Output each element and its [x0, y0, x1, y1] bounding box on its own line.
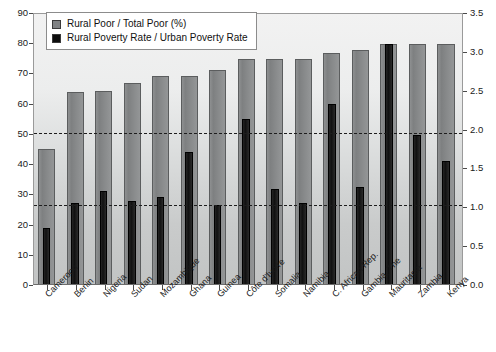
bar-group: [91, 14, 120, 284]
left-axis-tick-mark: [29, 43, 33, 44]
right-axis-tick-label: 1.5: [470, 162, 496, 173]
left-axis-tick-label: 10: [0, 249, 28, 260]
bar-group: [262, 14, 291, 284]
legend-label: Rural Poor / Total Poor (%): [67, 18, 186, 30]
bar-poverty-rate-ratio: [299, 203, 307, 284]
right-axis-tick-label: 0.5: [470, 240, 496, 251]
legend-swatch-gray-icon: [52, 20, 61, 29]
bar-group: [177, 14, 206, 284]
left-axis-tick-mark: [29, 73, 33, 74]
right-axis-tick-mark: [463, 52, 467, 53]
left-axis-tick-label: 30: [0, 188, 28, 199]
right-axis-tick-label: 1.0: [470, 201, 496, 212]
left-axis-tick-label: 70: [0, 67, 28, 78]
left-axis-tick-mark: [29, 285, 33, 286]
bar-group: [348, 14, 377, 284]
plot-area: [33, 13, 463, 285]
chart-legend: Rural Poor / Total Poor (%) Rural Povert…: [46, 12, 257, 50]
bar-poverty-rate-ratio: [157, 197, 165, 284]
right-axis-tick-label: 3.0: [470, 46, 496, 57]
left-axis-tick-mark: [29, 255, 33, 256]
chart-container: 0102030405060708090 0.00.51.01.52.02.53.…: [0, 0, 496, 352]
bar-group: [63, 14, 92, 284]
legend-label: Rural Poverty Rate / Urban Poverty Rate: [67, 32, 248, 44]
right-axis-tick-label: 3.5: [470, 7, 496, 18]
left-axis-tick-label: 90: [0, 7, 28, 18]
bar-poverty-rate-ratio: [242, 119, 250, 284]
right-axis-tick-mark: [463, 13, 467, 14]
left-axis-tick-mark: [29, 13, 33, 14]
left-axis-tick-mark: [29, 134, 33, 135]
bar-group: [120, 14, 149, 284]
legend-item-rural-poor-share: Rural Poor / Total Poor (%): [52, 17, 248, 31]
left-axis-tick-mark: [29, 225, 33, 226]
left-axis-tick-mark: [29, 104, 33, 105]
bar-group: [433, 14, 462, 284]
bar-poverty-rate-ratio: [442, 161, 450, 284]
right-axis-tick-mark: [463, 91, 467, 92]
bar-poverty-rate-ratio: [328, 104, 336, 284]
left-axis-tick-label: 80: [0, 37, 28, 48]
bar-group: [234, 14, 263, 284]
lower-reference-line: [34, 205, 462, 206]
bar-poverty-rate-ratio: [128, 201, 136, 284]
left-axis-tick-label: 40: [0, 158, 28, 169]
right-axis-tick-mark: [463, 130, 467, 131]
left-axis-tick-mark: [29, 194, 33, 195]
bars-layer: [34, 14, 462, 284]
left-axis-tick-mark: [29, 164, 33, 165]
bar-poverty-rate-ratio: [413, 135, 421, 284]
bar-group: [34, 14, 63, 284]
bar-group: [319, 14, 348, 284]
right-axis-tick-mark: [463, 168, 467, 169]
bar-group: [148, 14, 177, 284]
left-axis-tick-label: 0: [0, 279, 28, 290]
bar-group: [376, 14, 405, 284]
bar-poverty-rate-ratio: [43, 228, 51, 284]
bar-group: [291, 14, 320, 284]
left-axis-tick-label: 20: [0, 219, 28, 230]
bar-poverty-rate-ratio: [214, 205, 222, 284]
bar-group: [405, 14, 434, 284]
left-axis-tick-label: 60: [0, 98, 28, 109]
legend-item-poverty-rate-ratio: Rural Poverty Rate / Urban Poverty Rate: [52, 31, 248, 45]
right-axis-tick-mark: [463, 207, 467, 208]
bar-poverty-rate-ratio: [385, 44, 393, 284]
upper-reference-line: [34, 133, 462, 134]
bar-group: [205, 14, 234, 284]
right-axis-tick-label: 2.0: [470, 124, 496, 135]
right-axis-tick-label: 2.5: [470, 85, 496, 96]
right-axis-tick-mark: [463, 246, 467, 247]
legend-swatch-black-icon: [52, 34, 61, 43]
left-axis-tick-label: 50: [0, 128, 28, 139]
right-axis-tick-label: 0.0: [470, 279, 496, 290]
